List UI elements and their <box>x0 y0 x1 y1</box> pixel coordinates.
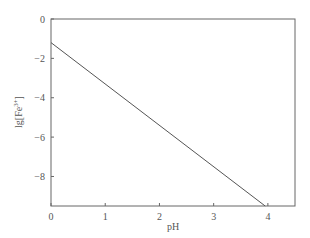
x-tick-label: 2 <box>157 211 162 222</box>
plot-frame <box>51 19 295 206</box>
y-tick-label: 0 <box>40 14 45 25</box>
series-line <box>51 43 265 206</box>
x-tick-label: 0 <box>49 211 54 222</box>
x-tick-label: 4 <box>265 211 270 222</box>
data-series <box>51 43 265 206</box>
y-tick-label: −4 <box>34 92 45 103</box>
y-tick-label: −6 <box>34 132 45 143</box>
plot-border <box>51 19 295 206</box>
y-tick-label: −2 <box>34 53 45 64</box>
x-tick-label: 1 <box>103 211 108 222</box>
y-axis-label: lg[Fe3+] <box>12 96 24 128</box>
chart: 01234 0−2−4−6−8 pH lg[Fe3+] <box>0 0 310 238</box>
x-axis-label: pH <box>167 221 179 232</box>
x-tick-label: 3 <box>211 211 216 222</box>
y-tick-label: −8 <box>34 171 45 182</box>
